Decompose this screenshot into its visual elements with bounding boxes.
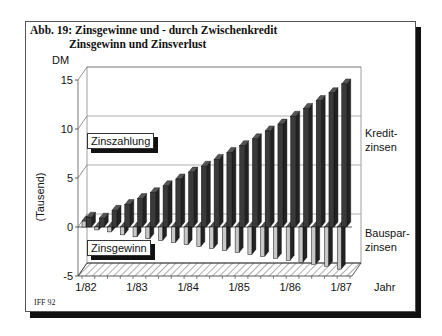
gridline-diagonal	[78, 116, 87, 129]
bar-bauspar-side	[290, 222, 294, 260]
bar-kredit-side	[232, 148, 236, 227]
bar-kredit-side	[219, 154, 223, 227]
bar-bauspar-side	[316, 222, 320, 264]
bar-bauspar	[171, 227, 175, 243]
bar-kredit	[252, 139, 257, 227]
bar-kredit-side	[257, 134, 261, 227]
bar-kredit	[214, 159, 219, 227]
bar-kredit	[99, 218, 104, 227]
bar-kredit	[329, 93, 334, 227]
bar-bauspar	[197, 227, 201, 247]
x-tick-label: 1/86	[279, 281, 300, 293]
x-tick-label: 1/82	[75, 281, 96, 293]
bar-kredit	[189, 172, 194, 227]
bar-bauspar	[312, 227, 316, 264]
annotation-zinsgewinn: Zinsgewinn	[87, 240, 151, 256]
bar-kredit-side	[181, 174, 185, 227]
y-tick-label: 5	[67, 172, 73, 184]
bar-kredit-side	[245, 141, 249, 227]
y-tick-label: 0	[67, 221, 73, 233]
bar-kredit-side	[334, 88, 338, 227]
bar-kredit-side	[347, 79, 351, 227]
bar-bauspar	[222, 227, 226, 251]
legend-kredit-line2: zinsen	[365, 141, 397, 153]
x-axis-unit: Jahr	[374, 281, 396, 293]
bar-bauspar-side	[328, 222, 332, 266]
bar-kredit	[342, 84, 347, 227]
bar-kredit-side	[270, 126, 274, 227]
bar-bauspar	[235, 227, 239, 252]
bar-kredit	[112, 210, 117, 227]
y-axis-unit: DM	[52, 54, 69, 66]
annotation-zinszahlung: Zinszahlung	[87, 133, 154, 149]
bar-bauspar	[286, 227, 290, 260]
bar-kredit	[125, 204, 130, 227]
bar-kredit	[278, 124, 283, 227]
bar-kredit	[150, 193, 155, 227]
bar-bauspar	[133, 227, 137, 237]
y-tick-label: 15	[61, 74, 73, 86]
bar-kredit	[227, 153, 232, 227]
gridline-diagonal	[78, 165, 87, 178]
floor	[78, 263, 361, 276]
bar-kredit-side	[321, 96, 325, 227]
x-tick-label: 1/87	[331, 281, 352, 293]
bar-kredit-side	[296, 111, 300, 227]
bar-bauspar	[146, 227, 150, 239]
legend-kredit-line1: Kredit-	[365, 127, 398, 139]
bar-bauspar	[184, 227, 188, 245]
bar-bauspar	[273, 227, 277, 258]
bar-bauspar-side	[277, 222, 281, 258]
legend-bauspar-line1: Bauspar-	[365, 227, 410, 239]
bar-kredit-side	[143, 194, 147, 227]
gridline-diagonal	[78, 67, 87, 80]
y-tick-label: -5	[63, 270, 73, 282]
bar-kredit-side	[206, 161, 210, 227]
bar-bauspar	[210, 227, 214, 249]
bar-bauspar	[261, 227, 265, 256]
bar-bauspar	[248, 227, 252, 254]
bar-kredit	[163, 186, 168, 227]
bar-kredit	[87, 217, 92, 227]
bar-kredit	[265, 131, 270, 227]
x-tick-label: 1/83	[126, 281, 147, 293]
bar-bauspar	[324, 227, 328, 266]
bar-bauspar	[120, 227, 124, 235]
bar-kredit-side	[283, 119, 287, 227]
bar-kredit-side	[194, 167, 198, 227]
bar-kredit-side	[168, 181, 172, 227]
bar-kredit	[240, 146, 245, 227]
bar-kredit	[303, 108, 308, 227]
bar-kredit	[176, 179, 181, 227]
bar-bauspar-side	[303, 222, 307, 262]
bar-kredit-side	[308, 103, 312, 227]
bar-kredit	[291, 116, 296, 227]
bar-bauspar	[337, 227, 341, 269]
bar-kredit-side	[155, 188, 159, 227]
y-axis-label: (Tausend)	[34, 173, 46, 222]
x-tick-label: 1/84	[177, 281, 198, 293]
bar-bauspar	[95, 227, 99, 230]
footer-source: IFF 92	[34, 298, 56, 307]
x-tick-label: 1/85	[228, 281, 249, 293]
bar-kredit	[316, 101, 321, 227]
bar-bauspar	[82, 221, 86, 227]
chart-plot: -50510151/821/831/841/851/861/87JahrDM(T…	[0, 0, 442, 336]
bar-bauspar	[159, 227, 163, 241]
y-tick-label: 10	[61, 123, 73, 135]
bar-kredit	[201, 166, 206, 227]
bar-bauspar	[299, 227, 303, 262]
bar-kredit	[138, 199, 143, 227]
legend-bauspar-line2: zinsen	[365, 241, 397, 253]
bar-bauspar	[108, 227, 112, 232]
bar-bauspar-side	[341, 222, 345, 269]
